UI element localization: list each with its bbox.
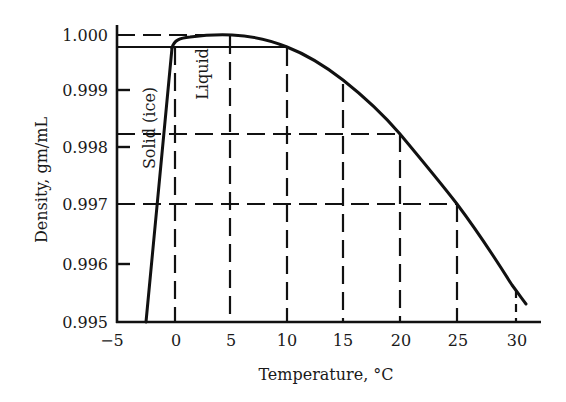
x-tick-label: 25 [448, 331, 468, 350]
x-tick-label: 10 [277, 331, 297, 350]
x-tick-label: −5 [100, 331, 124, 350]
x-tick-label: 5 [226, 331, 236, 350]
y-tick-label: 0.996 [62, 255, 108, 274]
y-tick-label: 0.999 [62, 81, 108, 100]
y-tick-label: 0.997 [62, 195, 108, 214]
y-tick-label: 1.000 [62, 26, 108, 45]
liquid-label: Liquid [193, 48, 212, 100]
x-tick-label: 30 [507, 331, 527, 350]
solid-ice-label: Solid (ice) [140, 87, 159, 169]
x-axis-title: Temperature, °C [258, 365, 393, 384]
reference-lines [117, 35, 516, 322]
x-tick-label: 20 [391, 331, 411, 350]
y-axis-title: Density, gm/mL [32, 117, 51, 243]
y-tick-label: 0.998 [62, 138, 108, 157]
x-tick-label: 0 [171, 331, 181, 350]
y-tick-labels: 1.000 0.999 0.998 0.997 0.996 0.995 [62, 26, 108, 332]
liquid-curve [172, 35, 526, 304]
y-ticks [117, 90, 130, 264]
y-tick-label: 0.995 [62, 313, 108, 332]
x-tick-label: 15 [333, 331, 353, 350]
x-tick-labels: −5 0 5 10 15 20 25 30 [100, 331, 527, 350]
density-chart: 1.000 0.999 0.998 0.997 0.996 0.995 −5 0… [0, 0, 566, 402]
